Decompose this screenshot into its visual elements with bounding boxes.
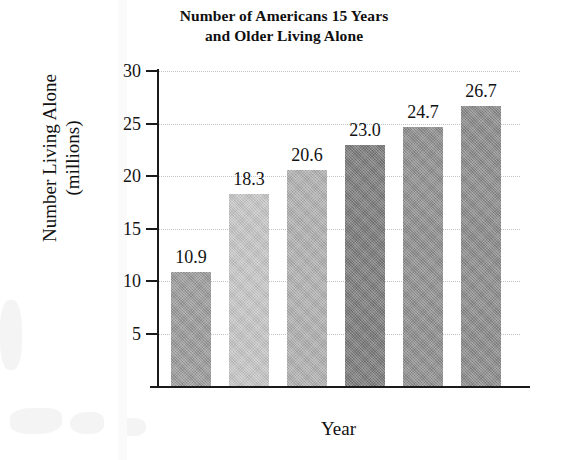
y-axis-title-line-1: Number Living Alone: [38, 63, 61, 253]
bar: [287, 170, 327, 386]
x-axis-title: Year: [157, 418, 520, 440]
y-axis-tick-label: 15: [123, 218, 141, 239]
y-axis-tick-label: 5: [132, 323, 141, 344]
bar-value-label: 23.0: [349, 120, 381, 141]
chart-title-line-1: Number of Americans 15 Years: [0, 6, 568, 26]
bar-value-label: 18.3: [233, 169, 265, 190]
bar: [345, 145, 385, 387]
y-axis-tick-label: 10: [123, 271, 141, 292]
bar-series: 10.9197018.3198020.6198523.0199024.71995…: [157, 71, 520, 386]
y-axis-tick-label: 20: [123, 166, 141, 187]
y-axis-tick-label: 25: [123, 113, 141, 134]
bar-value-label: 20.6: [291, 145, 323, 166]
y-axis-tick-label: 30: [123, 61, 141, 82]
chart-title: Number of Americans 15 Years and Older L…: [0, 6, 568, 46]
bar-value-label: 26.7: [465, 81, 497, 102]
y-axis-title-line-2: (millions): [61, 63, 84, 253]
bar-value-label: 24.7: [407, 102, 439, 123]
bar-value-label: 10.9: [175, 247, 207, 268]
chart-title-line-2: and Older Living Alone: [0, 26, 568, 46]
bar: [171, 272, 211, 386]
bar-chart: Number of Americans 15 Years and Older L…: [0, 0, 568, 460]
bar: [461, 106, 501, 386]
x-axis-line: [150, 386, 530, 388]
bar: [403, 127, 443, 386]
bar: [229, 194, 269, 386]
plot-area: 51015202530 10.9197018.3198020.6198523.0…: [157, 71, 520, 386]
y-axis-title: Number Living Alone (millions): [38, 63, 84, 253]
